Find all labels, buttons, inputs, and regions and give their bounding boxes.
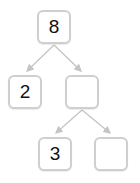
node-right-left: 3 — [38, 137, 72, 171]
edge-root-left — [27, 45, 54, 71]
number-bond-tree: 8 2 3 — [0, 0, 140, 183]
node-right-empty[interactable] — [65, 75, 99, 109]
node-left-value: 2 — [20, 81, 31, 103]
node-right-right-empty[interactable] — [94, 137, 128, 171]
edge-root-right — [54, 45, 81, 71]
edge-right-left — [56, 110, 82, 133]
node-root-value: 8 — [49, 16, 60, 38]
node-right-left-value: 3 — [50, 143, 61, 165]
node-root: 8 — [37, 10, 71, 44]
edge-right-right — [82, 110, 110, 133]
node-left: 2 — [8, 75, 42, 109]
